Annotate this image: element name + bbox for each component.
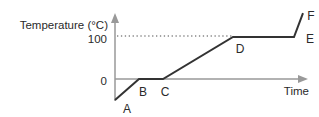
point-labels-group: ABCDEF [123, 9, 315, 116]
x-axis-title: Time [284, 85, 309, 97]
chart-canvas: Temperature (°C) Time 100 0 ABCDEF [0, 0, 319, 117]
x-axis-arrow-icon [298, 75, 308, 83]
point-label-A: A [123, 102, 131, 116]
heating-curve-chart: Temperature (°C) Time 100 0 ABCDEF [0, 0, 319, 117]
point-label-B: B [139, 85, 147, 99]
y-axis-arrow-icon [111, 13, 119, 23]
point-label-F: F [307, 9, 314, 23]
point-label-D: D [236, 42, 245, 56]
point-label-E: E [306, 32, 314, 46]
point-label-C: C [161, 85, 170, 99]
y-tick-label-0: 0 [101, 75, 107, 87]
y-tick-label-100: 100 [88, 33, 107, 45]
y-axis-title: Temperature (°C) [20, 19, 108, 31]
